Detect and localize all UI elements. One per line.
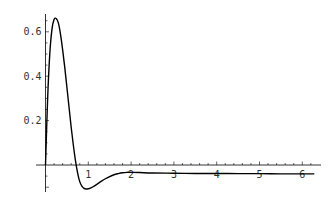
y-tick-label: 0.6 (23, 26, 41, 37)
x-tick-label: 2 (128, 169, 134, 180)
x-axis-ticks: 123456 (54, 162, 311, 181)
y-tick-label: 0.2 (23, 115, 41, 126)
line-chart: 123456 0.20.40.6 (0, 0, 335, 205)
x-tick-label: 5 (256, 169, 262, 180)
y-tick-label: 0.4 (23, 71, 41, 82)
axes (36, 14, 321, 192)
x-tick-label: 4 (214, 169, 220, 180)
data-curve (46, 18, 315, 189)
x-tick-label: 1 (85, 169, 91, 180)
x-tick-label: 3 (171, 169, 177, 180)
